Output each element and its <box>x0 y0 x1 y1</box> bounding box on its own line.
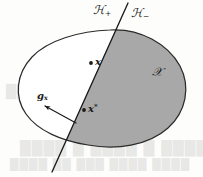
point-x-star-label: x* <box>88 103 98 114</box>
convex-set-label: 𝒳 <box>152 66 162 78</box>
point-marker-x <box>89 61 93 65</box>
point-x-star-superscript: * <box>94 102 98 111</box>
halfspace-positive-label: ℋ+ <box>93 4 111 17</box>
halfspace-positive-subscript: + <box>105 9 111 18</box>
gradient-symbol: g <box>37 90 44 101</box>
halfspace-negative-label: ℋ− <box>131 7 149 20</box>
halfspace-positive-symbol: ℋ <box>93 3 105 17</box>
figure-canvas <box>0 0 203 177</box>
gradient-subscript: x <box>44 94 48 101</box>
point-x-label: x <box>95 57 101 67</box>
point-marker-x-star <box>82 108 86 112</box>
gradient-label: gx <box>37 91 48 102</box>
separating-hyperplane-figure: ███ ██████ ██ ███ ████ █ ████ █ ████ ███… <box>0 0 203 177</box>
halfspace-negative-symbol: ℋ <box>131 6 143 20</box>
halfspace-negative-subscript: − <box>143 12 149 21</box>
